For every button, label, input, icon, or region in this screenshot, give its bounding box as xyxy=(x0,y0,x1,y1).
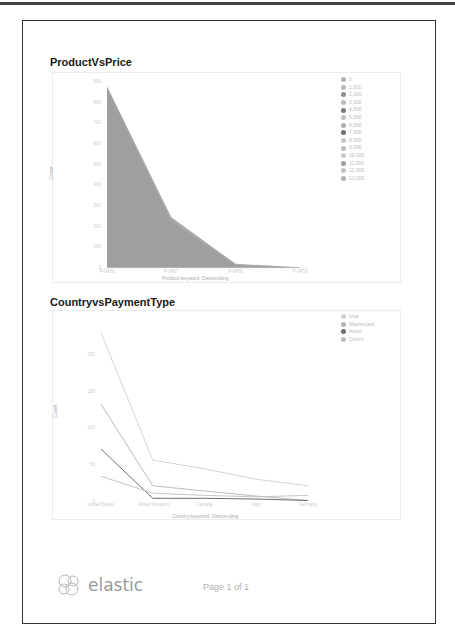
chart2-plot xyxy=(0,0,455,644)
legend-dot-icon xyxy=(341,337,346,342)
x-tick-label: United States xyxy=(86,502,116,507)
legend-item[interactable]: Amex xyxy=(341,328,374,336)
legend-label: Diners xyxy=(349,336,363,344)
x-tick-label: Italy xyxy=(241,502,271,507)
legend-label: Amex xyxy=(349,328,362,336)
legend-item[interactable]: Mastercard xyxy=(341,321,374,329)
x-tick-label: United Kingdom xyxy=(138,502,168,507)
legend-item[interactable]: Visa xyxy=(341,313,374,321)
page-number: Page 1 of 1 xyxy=(203,582,249,592)
chart2-legend: VisaMastercardAmexDiners xyxy=(341,313,374,343)
logo-text: elastic xyxy=(88,575,143,595)
legend-label: Mastercard xyxy=(349,321,374,329)
legend-label: Visa xyxy=(349,313,359,321)
elastic-logo-icon xyxy=(56,572,82,598)
legend-dot-icon xyxy=(341,322,346,327)
x-tick-label: Canada xyxy=(190,502,220,507)
legend-dot-icon xyxy=(341,329,346,334)
legend-dot-icon xyxy=(341,314,346,319)
chart2-x-axis-label: Country.keyword: Descending xyxy=(172,513,238,519)
elastic-logo: elastic xyxy=(56,572,143,598)
x-tick-label: Germany xyxy=(293,502,323,507)
legend-item[interactable]: Diners xyxy=(341,336,374,344)
